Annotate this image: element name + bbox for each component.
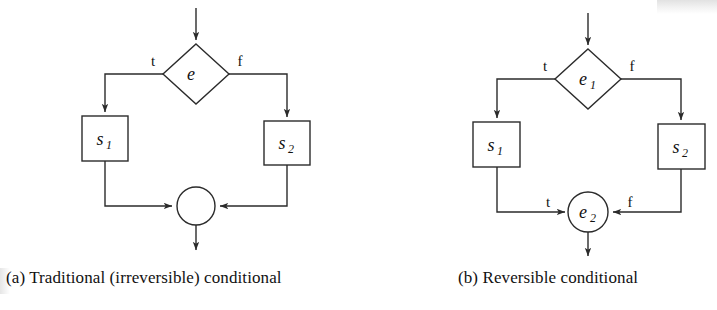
- panel-a-merge-edge-right: [220, 165, 287, 206]
- panel-b-merge-subscript: 2: [590, 211, 596, 225]
- panel-a-true-label: t: [151, 53, 156, 69]
- figure-root: e t f s 1 s 2: [0, 0, 717, 310]
- panel-a-true-edge: [105, 74, 163, 112]
- panel-a-statement-2-label: s: [278, 133, 285, 153]
- panel-b-merge-edge-left: [497, 167, 565, 212]
- panel-a-statement-1-box: [82, 116, 128, 161]
- panel-a-diagram: e t f s 1 s 2: [82, 8, 310, 250]
- panel-b-merge-edge-right: [613, 169, 681, 212]
- panel-a-merge-edge-left: [105, 161, 172, 206]
- panel-b-statement-2-label: s: [672, 137, 679, 157]
- panel-a-decision-label: e: [187, 64, 195, 84]
- flowchart-figure: e t f s 1 s 2: [0, 0, 717, 310]
- panel-a-statement-1-subscript: 1: [106, 138, 112, 152]
- panel-a-merge-circle: [177, 187, 215, 225]
- panel-a-statement-1-label: s: [96, 129, 103, 149]
- panel-b-merge-label: e: [579, 202, 587, 222]
- panel-a-statement-2-box: [264, 121, 310, 165]
- panel-b-statement-1-subscript: 1: [497, 144, 503, 158]
- panel-b-false-label: f: [630, 58, 635, 74]
- panel-b-merge-circle: [568, 192, 608, 232]
- panel-b-statement-2-subscript: 2: [682, 146, 688, 160]
- panel-b-false-edge: [621, 79, 681, 120]
- caption-panel-b: (b) Reversible conditional: [458, 268, 638, 288]
- panel-a-false-label: f: [238, 53, 243, 69]
- panel-b-true-label: t: [543, 58, 548, 74]
- panel-b-diagram: e 1 t f s 1 s 2 t f: [473, 13, 705, 256]
- panel-b-merge-false-label: f: [628, 194, 633, 210]
- panel-b-merge-true-label: t: [546, 194, 551, 210]
- panel-a-false-edge: [229, 74, 287, 117]
- caption-panel-a: (a) Traditional (irreversible) condition…: [6, 268, 282, 288]
- panel-a-decision-diamond: [163, 44, 229, 104]
- panel-b-statement-1-label: s: [487, 135, 494, 155]
- panel-b-decision-diamond: [555, 49, 621, 109]
- panel-b-decision-subscript: 1: [590, 78, 596, 92]
- panel-b-decision-label: e: [579, 69, 587, 89]
- panel-b-true-edge: [497, 79, 555, 118]
- panel-a-statement-2-subscript: 2: [288, 142, 294, 156]
